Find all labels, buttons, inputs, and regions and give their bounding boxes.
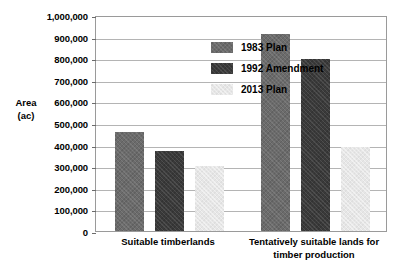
y-axis-tick-labels: 1,000,000900,000800,000700,000600,000500…: [42, 16, 92, 232]
x-axis-tick-label: Tentatively suitable lands fortimber pro…: [233, 236, 395, 261]
y-axis-tick-label: 100,000: [54, 205, 88, 216]
bar-chart: Area (ac) 1,000,000900,000800,000700,000…: [0, 0, 403, 278]
y-axis-tick-label: 400,000: [54, 140, 88, 151]
y-axis-tick-label: 800,000: [54, 54, 88, 65]
legend-label: 1983 Plan: [241, 42, 287, 53]
legend-label: 1992 Amendment: [241, 63, 323, 74]
legend-swatch: [211, 63, 233, 74]
y-axis-tickmark: [92, 233, 96, 234]
y-axis-tick-label: 500,000: [54, 119, 88, 130]
y-axis-tick-label: 1,000,000: [47, 11, 88, 22]
legend-item: 1992 Amendment: [211, 58, 356, 79]
y-axis-tick-label: 600,000: [54, 97, 88, 108]
legend-item: 1983 Plan: [211, 37, 356, 58]
legend-label: 2013 Plan: [241, 84, 287, 95]
bar: [341, 147, 370, 231]
bar: [155, 151, 184, 231]
legend-swatch: [211, 42, 233, 53]
y-axis-tick-label: 300,000: [54, 162, 88, 173]
plot-area: 1983 Plan1992 Amendment2013 Plan: [95, 16, 387, 232]
x-axis-tick-label-line: timber production: [233, 249, 395, 262]
x-axis-tick-labels: Suitable timberlandsTentatively suitable…: [95, 236, 387, 276]
y-axis-tick-label: 700,000: [54, 75, 88, 86]
bar: [195, 166, 224, 231]
bar: [115, 132, 144, 231]
y-axis-tick-label: 900,000: [54, 32, 88, 43]
x-axis-tick-label: Suitable timberlands: [87, 236, 249, 249]
legend: 1983 Plan1992 Amendment2013 Plan: [211, 37, 356, 100]
x-axis-tick-label-line: Suitable timberlands: [87, 236, 249, 249]
legend-item: 2013 Plan: [211, 79, 356, 100]
y-axis-tick-label: 200,000: [54, 183, 88, 194]
legend-swatch: [211, 84, 233, 95]
x-axis-tick-label-line: Tentatively suitable lands for: [233, 236, 395, 249]
